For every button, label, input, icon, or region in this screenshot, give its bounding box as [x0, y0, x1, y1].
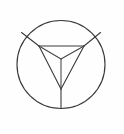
tetrahedron-in-circle-figure — [0, 0, 124, 134]
